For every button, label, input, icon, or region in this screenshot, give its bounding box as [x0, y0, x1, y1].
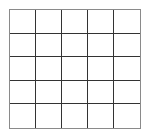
grid-cell[interactable]: [88, 104, 114, 128]
grid-cell[interactable]: [10, 34, 36, 58]
grid-cell[interactable]: [114, 10, 140, 34]
grid-cell[interactable]: [62, 10, 88, 34]
grid-cell[interactable]: [36, 10, 62, 34]
grid-cell[interactable]: [36, 57, 62, 81]
grid-cell[interactable]: [36, 81, 62, 105]
grid-cell[interactable]: [10, 104, 36, 128]
grid-cell[interactable]: [36, 34, 62, 58]
grid-cell[interactable]: [88, 57, 114, 81]
grid-cell[interactable]: [88, 81, 114, 105]
grid-cell[interactable]: [114, 34, 140, 58]
grid-cell[interactable]: [114, 57, 140, 81]
grid-cell[interactable]: [36, 104, 62, 128]
grid-cell[interactable]: [62, 34, 88, 58]
grid-cell[interactable]: [10, 57, 36, 81]
grid-cell[interactable]: [62, 104, 88, 128]
empty-grid: [9, 9, 141, 129]
grid-cell[interactable]: [88, 10, 114, 34]
grid-cell[interactable]: [88, 34, 114, 58]
grid-cell[interactable]: [10, 10, 36, 34]
grid-cell[interactable]: [62, 81, 88, 105]
grid-cell[interactable]: [114, 104, 140, 128]
grid-cell[interactable]: [10, 81, 36, 105]
grid-cell[interactable]: [114, 81, 140, 105]
grid-cell[interactable]: [62, 57, 88, 81]
